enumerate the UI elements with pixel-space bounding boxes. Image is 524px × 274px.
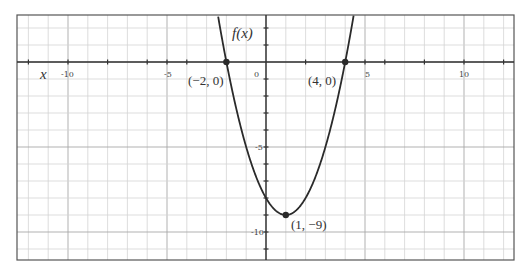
- annotation-left-root: (−2, 0): [188, 73, 224, 88]
- annotation-right-root: (4, 0): [308, 73, 336, 88]
- x-tick-label: 0: [254, 70, 259, 79]
- y-tick-label: -5: [255, 143, 263, 152]
- axes: [17, 15, 514, 260]
- key-point-marker: [283, 212, 289, 218]
- y-axis-label: f(x): [232, 25, 253, 42]
- key-point-marker: [223, 59, 229, 65]
- x-tick-label: -5: [164, 70, 172, 79]
- key-point-marker: [342, 59, 348, 65]
- y-tick-label: -10: [251, 228, 264, 237]
- function-graph: x f(x) -10 -5 0 5 10 -5 -10 (−2, 0) (4, …: [0, 0, 524, 274]
- x-axis-label: x: [39, 66, 47, 82]
- x-tick-label: 10: [459, 70, 469, 79]
- annotation-vertex: (1, −9): [291, 217, 327, 232]
- x-tick-label: -10: [61, 70, 74, 79]
- x-tick-label: 5: [365, 70, 370, 79]
